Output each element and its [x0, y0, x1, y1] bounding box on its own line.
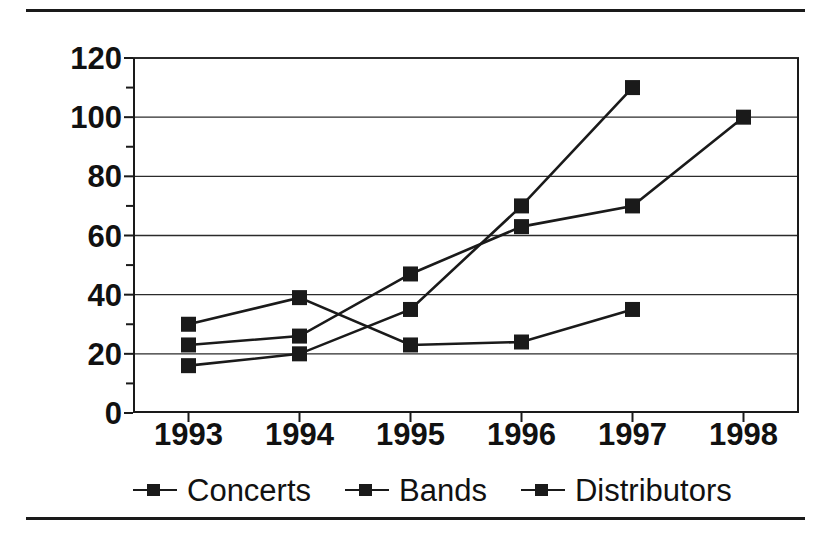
y-tick-label-120: 120	[70, 43, 122, 74]
legend-marker-icon	[133, 481, 177, 499]
legend-marker-icon	[521, 481, 565, 499]
x-tick-label-1995: 1995	[376, 419, 445, 450]
legend-marker-square	[535, 484, 548, 496]
legend-item-bands[interactable]: Bands	[345, 475, 487, 506]
x-axis-tick-labels: 199319941995199619971998	[133, 419, 799, 461]
chart-figure: Number 020406080100120 19931994199519961…	[0, 0, 831, 537]
y-tick-label-60: 60	[88, 220, 122, 251]
chart-legend: ConcertsBandsDistributors	[133, 470, 813, 510]
legend-marker-square	[359, 484, 372, 496]
x-tick-label-1998: 1998	[709, 419, 778, 450]
y-tick-label-40: 40	[88, 279, 122, 310]
legend-item-concerts[interactable]: Concerts	[133, 475, 311, 506]
legend-item-distributors[interactable]: Distributors	[521, 475, 732, 506]
bottom-divider-rule	[26, 517, 805, 520]
legend-marker-icon	[345, 481, 389, 499]
y-tick-label-80: 80	[88, 161, 122, 192]
y-tick-label-20: 20	[88, 338, 122, 369]
y-tick-label-100: 100	[70, 102, 122, 133]
y-axis-tick-labels: 020406080100120	[42, 58, 122, 413]
x-tick-label-1993: 1993	[154, 419, 223, 450]
x-tick-label-1996: 1996	[487, 419, 556, 450]
x-tick-label-1994: 1994	[265, 419, 334, 450]
legend-item-label: Distributors	[575, 475, 732, 506]
x-tick-label-1997: 1997	[598, 419, 667, 450]
y-tick-label-0: 0	[105, 398, 122, 429]
legend-marker-square	[147, 484, 160, 496]
legend-item-label: Concerts	[187, 475, 311, 506]
plot-frame-border	[133, 58, 799, 413]
legend-item-label: Bands	[399, 475, 487, 506]
top-divider-rule	[26, 9, 805, 12]
plot-area	[133, 58, 799, 413]
